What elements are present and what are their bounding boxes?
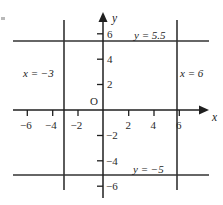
x-tick-label-neg6: −6 (20, 120, 32, 131)
x-tick-label-6: 6 (176, 120, 182, 131)
x-tick-label-neg2: −2 (71, 120, 83, 131)
y-tick-label-neg6: −6 (106, 181, 118, 192)
x-axis-label: x (212, 112, 217, 124)
y-tick-label-neg4: −4 (106, 156, 118, 167)
y-axis-arrowhead (99, 12, 108, 22)
equation-label-y-eq-5p5: y = 5.5 (134, 29, 166, 41)
equation-label-x-eq-neg3: x = −3 (23, 67, 54, 79)
y-tick-label-4: 4 (107, 54, 113, 65)
origin-label: O (90, 96, 98, 107)
y-tick-label-2: 2 (107, 79, 113, 90)
x-tick-label-neg4: −4 (45, 120, 57, 131)
equation-label-x-eq-6: x = 6 (180, 67, 203, 79)
y-tick-label-6: 6 (107, 29, 113, 40)
x-tick-label-4: 4 (151, 120, 157, 131)
coordinate-plane-figure: y x O −6 −4 −2 2 4 6 6 4 2 −2 −4 −6 x = … (0, 0, 223, 205)
y-tick-label-neg2: −2 (106, 130, 118, 141)
x-axis-arrowhead (199, 106, 209, 115)
equation-label-y-eq-neg5: y = −5 (133, 163, 164, 175)
y-axis-label: y (112, 13, 117, 25)
x-tick-label-2: 2 (126, 120, 132, 131)
